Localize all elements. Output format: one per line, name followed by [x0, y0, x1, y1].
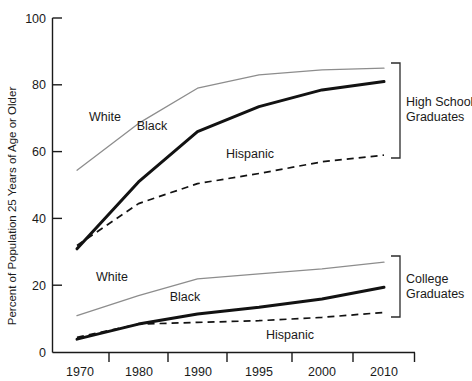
group-label-high-school-line1: High School [406, 95, 472, 109]
chart-container: Percent of Population 25 Years of Age or… [0, 0, 472, 381]
label-hs-black: Black [137, 119, 168, 133]
x-tick-label-1995: 1995 [245, 365, 273, 379]
group-label-high-school-line2: Graduates [406, 110, 464, 124]
x-tick-label-2000: 2000 [308, 365, 336, 379]
x-tick-label-1970: 1970 [66, 365, 94, 379]
y-tick-label-60: 60 [32, 145, 46, 159]
label-col-black: Black [170, 290, 201, 304]
x-tick-label-2010: 2010 [370, 365, 398, 379]
x-tick-label-1980: 1980 [125, 365, 153, 379]
x-tick-label-1990: 1990 [184, 365, 212, 379]
y-tick-label-40: 40 [32, 212, 46, 226]
label-col-hispanic: Hispanic [266, 328, 314, 342]
label-col-white: White [96, 270, 128, 284]
group-label-college-line1: College [406, 272, 448, 286]
group-label-college-line2: Graduates [406, 287, 464, 301]
label-hs-white: White [89, 110, 121, 124]
y-axis-title: Percent of Population 25 Years of Age or… [6, 87, 18, 326]
y-tick-label-80: 80 [32, 78, 46, 92]
education-attainment-line-chart: Percent of Population 25 Years of Age or… [0, 0, 472, 381]
chart-background [0, 0, 472, 381]
y-tick-label-0: 0 [39, 346, 46, 360]
y-tick-label-20: 20 [32, 279, 46, 293]
y-tick-label-100: 100 [25, 12, 46, 26]
label-hs-hispanic: Hispanic [226, 147, 274, 161]
